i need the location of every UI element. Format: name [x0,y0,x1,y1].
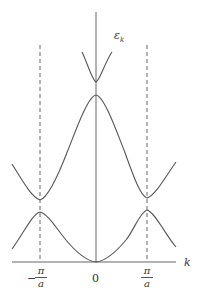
band-4-center [82,52,112,82]
epsilon-subscript: k [120,36,124,44]
tick-left-denominator: a [35,278,47,289]
tick-right-fraction: π a [141,266,153,289]
tick-left-numerator: π [35,266,47,278]
tick-left-fraction: π a [35,266,47,289]
tick-zero: 0 [92,272,99,285]
tick-right-numerator: π [141,266,153,278]
band-structure-diagram: εk k − π a 0 π a [0,0,201,299]
k-axis-label: k [184,257,191,268]
tick-right-denominator: a [141,278,153,289]
band-2-right-outer [124,150,176,198]
band-1 [12,210,176,262]
band-structure-plot [0,0,201,299]
energy-axis-label: εk [114,30,124,44]
